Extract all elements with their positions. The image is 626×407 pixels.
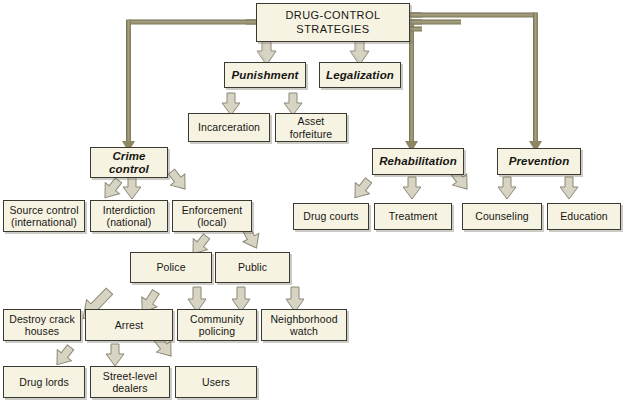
node-label: Community policing [190, 313, 244, 338]
node-crime-control[interactable]: Crime control [90, 147, 168, 178]
node-label: Police [156, 261, 185, 274]
node-source-control[interactable]: Source control (international) [3, 200, 85, 232]
node-label: Enforcement (local) [182, 204, 243, 229]
node-label: Crime control [109, 150, 149, 176]
node-drug-courts[interactable]: Drug courts [293, 203, 369, 230]
node-treatment[interactable]: Treatment [374, 203, 452, 230]
node-education[interactable]: Education [547, 203, 621, 230]
arrow-prevention-to-education [560, 177, 578, 199]
node-interdiction[interactable]: Interdiction (national) [90, 200, 168, 232]
arrow-crime-to-interdiction [123, 177, 141, 199]
connector-root-to-rehabilitation [405, 20, 461, 153]
node-drug-control-strategies[interactable]: DRUG-CONTROL STRATEGIES [256, 3, 410, 42]
node-label: Interdiction (national) [103, 204, 156, 229]
node-legalization[interactable]: Legalization [319, 62, 401, 88]
node-label: DRUG-CONTROL STRATEGIES [285, 9, 380, 36]
node-label: Source control (international) [9, 204, 78, 229]
node-prevention[interactable]: Prevention [497, 148, 581, 175]
flowchart-canvas: DRUG-CONTROL STRATEGIES Punishment Legal… [0, 0, 626, 407]
node-punishment[interactable]: Punishment [224, 62, 306, 88]
node-label: Prevention [509, 155, 570, 168]
node-label: Street-level dealers [103, 370, 157, 395]
node-label: Education [560, 210, 608, 223]
node-arrest[interactable]: Arrest [85, 309, 173, 341]
node-label: Incarceration [198, 121, 260, 134]
node-label: Treatment [389, 210, 437, 223]
node-neighborhood-watch[interactable]: Neighborhood watch [261, 309, 347, 341]
node-label: Public [238, 261, 267, 274]
node-users[interactable]: Users [175, 366, 257, 398]
node-label: Users [202, 376, 230, 389]
arrow-rehabilitation-to-treatment [403, 177, 421, 199]
arrow-punishment-to-asset-forfeiture [284, 93, 302, 115]
arrow-rehabilitation-to-drug-courts [348, 175, 376, 203]
node-label: Counseling [475, 210, 529, 223]
node-label: Rehabilitation [379, 155, 457, 168]
node-public[interactable]: Public [215, 252, 290, 283]
node-label: Destroy crack houses [9, 313, 75, 338]
connector-root-to-prevention [409, 13, 542, 153]
node-label: Punishment [232, 69, 299, 82]
node-label: Drug courts [303, 210, 358, 223]
arrow-crime-to-enforcement [164, 166, 192, 194]
node-label: Drug lords [19, 376, 68, 389]
node-rehabilitation[interactable]: Rehabilitation [372, 148, 464, 175]
node-asset-forfeiture[interactable]: Asset forfeiture [275, 113, 347, 142]
node-enforcement[interactable]: Enforcement (local) [172, 200, 252, 232]
node-label: Neighborhood watch [270, 313, 337, 338]
node-label: Legalization [326, 69, 394, 82]
node-label: Arrest [115, 319, 144, 332]
node-incarceration[interactable]: Incarceration [188, 113, 270, 142]
node-street-level-dealers[interactable]: Street-level dealers [90, 366, 170, 398]
node-drug-lords[interactable]: Drug lords [3, 366, 85, 398]
node-label: Asset forfeiture [290, 115, 333, 140]
node-police[interactable]: Police [130, 252, 212, 283]
node-destroy-crack-houses[interactable]: Destroy crack houses [3, 309, 81, 341]
arrow-crime-to-source-control [98, 175, 126, 203]
node-counseling[interactable]: Counseling [462, 203, 542, 230]
arrow-punishment-to-incarceration [222, 93, 240, 115]
node-community-policing[interactable]: Community policing [177, 309, 257, 341]
arrow-prevention-to-counseling [498, 177, 516, 199]
arrow-arrest-to-street-level-dealers [106, 344, 124, 366]
